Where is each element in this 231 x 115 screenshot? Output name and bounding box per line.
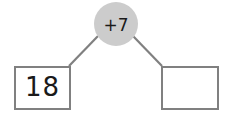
right-connector-line bbox=[133, 36, 162, 66]
left-connector-line bbox=[69, 36, 98, 66]
left-number-value: 18 bbox=[25, 74, 60, 100]
operation-label: +7 bbox=[103, 17, 128, 34]
operation-circle: +7 bbox=[94, 2, 138, 46]
right-answer-box[interactable] bbox=[161, 66, 219, 110]
number-bond-diagram: +7 18 bbox=[0, 0, 231, 115]
left-number-box[interactable]: 18 bbox=[14, 66, 71, 110]
